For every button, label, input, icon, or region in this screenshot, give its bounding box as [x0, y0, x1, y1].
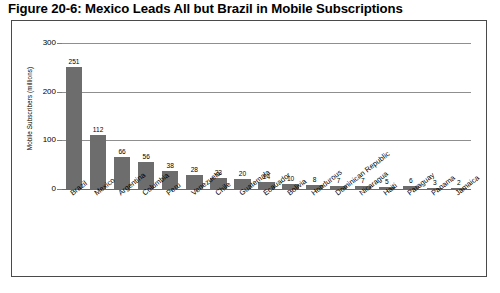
bar-item: 5 [379, 43, 395, 189]
y-tick-label: 0 [22, 185, 56, 193]
bar-value-label: 28 [191, 166, 198, 173]
bar-item: 112 [90, 43, 106, 189]
bar-item: 56 [138, 43, 154, 189]
bar-item: 251 [66, 43, 82, 189]
bar-value-label: 66 [118, 148, 125, 155]
bar-item: 20 [234, 43, 250, 189]
bar-value-label: 38 [167, 162, 174, 169]
bar-value-label: 56 [143, 153, 150, 160]
bar-value-label: 251 [69, 58, 80, 65]
y-axis-tick-labels: 0100200300 [22, 21, 56, 278]
bar-item: 23 [210, 43, 226, 189]
bar-item: 8 [306, 43, 322, 189]
bar-item: 66 [114, 43, 130, 189]
bar-value-label: 20 [239, 170, 246, 177]
y-tick-label: 100 [22, 136, 56, 144]
bar-value-label: 8 [313, 176, 317, 183]
y-tick-label: 300 [22, 39, 56, 47]
bar-item: 6 [403, 43, 419, 189]
bar-item: 38 [162, 43, 178, 189]
bar-value-label: 6 [409, 177, 413, 184]
y-tick-label: 200 [22, 88, 56, 96]
bar-value-label: 112 [93, 126, 104, 133]
bar-item: 3 [427, 43, 443, 189]
bar-item: 10 [282, 43, 298, 189]
figure-caption: Figure 20-6: Mexico Leads All but Brazil… [8, 0, 403, 18]
bar-item: 28 [186, 43, 202, 189]
figure-box: Mobile Subscribers (millions) 0100200300… [11, 20, 487, 277]
x-axis-tick-labels: BrazilMexicoArgentinaColumbiaPeruVenezue… [62, 191, 471, 277]
bar-rect [66, 67, 82, 189]
chart-plot-area: Mobile Subscribers (millions) 0100200300… [12, 21, 488, 278]
bar-item: 2 [451, 43, 467, 189]
